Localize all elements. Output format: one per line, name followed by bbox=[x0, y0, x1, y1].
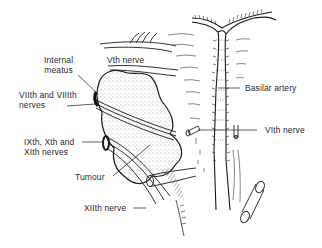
label-ixth-line1: IXth, Xth and bbox=[24, 137, 74, 147]
label-viith-viiith-line1: VIIth and VIIIth bbox=[19, 90, 77, 100]
label-ixth-xth-xith-nerves: IXth, Xth and XIth nerves bbox=[24, 137, 74, 157]
vessel-cylinder bbox=[239, 180, 266, 224]
label-internal-meatus: Internal meatus bbox=[44, 55, 73, 75]
label-internal-meatus-line2: meatus bbox=[44, 65, 73, 75]
label-vth-nerve: Vth nerve bbox=[107, 55, 144, 65]
label-viith-viiith-line2: nerves bbox=[19, 100, 77, 110]
label-xiith-nerve: XIIth nerve bbox=[84, 203, 126, 213]
label-basilar-artery: Basilar artery bbox=[245, 83, 296, 93]
label-ixth-line2: XIth nerves bbox=[24, 147, 74, 157]
label-vith-nerve: VIth nerve bbox=[265, 125, 305, 135]
label-viith-viiith-nerves: VIIth and VIIIth nerves bbox=[19, 90, 77, 110]
basilar-artery bbox=[192, 12, 276, 210]
label-internal-meatus-line1: Internal bbox=[44, 55, 73, 65]
anatomy-diagram bbox=[0, 0, 322, 248]
label-tumour: Tumour bbox=[75, 172, 105, 182]
vith-nerve-drawing bbox=[186, 125, 238, 139]
vth-nerve-drawing bbox=[100, 32, 178, 76]
brainstem-shading bbox=[168, 34, 250, 203]
